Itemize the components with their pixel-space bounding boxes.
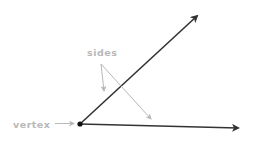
sides-pointer-right xyxy=(101,64,151,119)
vertex-dot xyxy=(77,121,82,126)
upper-ray xyxy=(80,16,197,124)
sides-label: sides xyxy=(87,48,117,58)
vertex-label: vertex xyxy=(13,120,50,130)
lower-ray xyxy=(80,124,238,128)
sides-pointer-left xyxy=(101,64,104,91)
